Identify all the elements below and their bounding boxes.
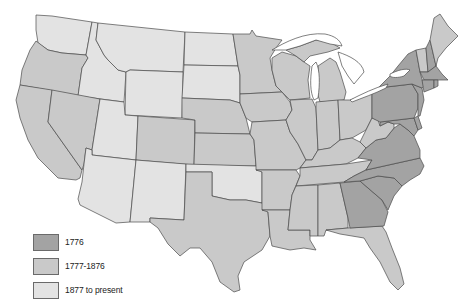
state-new-mexico xyxy=(130,160,186,222)
legend-swatch-1877-present xyxy=(33,282,59,299)
state-colorado xyxy=(136,116,195,165)
legend-label: 1776 xyxy=(65,237,84,247)
state-south-dakota xyxy=(182,65,240,103)
legend-item-1776: 1776 xyxy=(33,230,123,254)
state-florida xyxy=(326,226,404,290)
legend-item-1777-1876: 1777-1876 xyxy=(33,254,123,278)
state-maine xyxy=(430,14,458,66)
state-wyoming xyxy=(125,70,183,118)
lake-michigan xyxy=(311,62,320,100)
legend-label: 1877 to present xyxy=(65,285,123,295)
state-kansas xyxy=(194,133,256,166)
state-connecticut xyxy=(422,80,434,92)
map-legend: 1776 1777-1876 1877 to present xyxy=(33,230,123,302)
legend-label: 1777-1876 xyxy=(65,261,105,271)
state-arizona xyxy=(78,148,136,223)
legend-swatch-1776 xyxy=(33,234,59,251)
state-rhode-island xyxy=(434,80,438,88)
legend-swatch-1777-1876 xyxy=(33,258,59,275)
legend-item-1877-present: 1877 to present xyxy=(33,278,123,302)
state-north-dakota xyxy=(184,32,238,66)
state-iowa xyxy=(240,92,292,122)
